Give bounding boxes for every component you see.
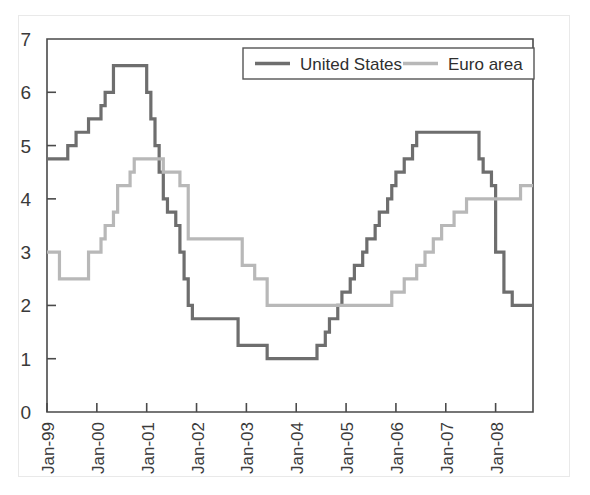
legend-label-united-states: United States [300,55,402,74]
x-tick-label-Jan-01: Jan-01 [139,422,158,474]
y-tick-label-6: 6 [20,82,31,103]
x-tick-label-Jan-05: Jan-05 [338,422,357,474]
chart-legend: United StatesEuro area [243,48,534,79]
y-tick-label-7: 7 [20,29,31,50]
x-tick-label-Jan-00: Jan-00 [89,422,108,474]
x-tick-label-Jan-07: Jan-07 [438,422,457,474]
plot-area: 01234567 Jan-99Jan-00Jan-01Jan-02Jan-03J… [0,0,590,495]
chart-svg: 01234567 Jan-99Jan-00Jan-01Jan-02Jan-03J… [0,0,590,495]
figure-container: 01234567 Jan-99Jan-00Jan-01Jan-02Jan-03J… [0,0,590,495]
y-tick-label-0: 0 [20,402,31,423]
x-tick-label-Jan-04: Jan-04 [288,422,307,474]
x-tick-label-Jan-02: Jan-02 [189,422,208,474]
y-axis-tick-labels: 01234567 [20,29,31,423]
x-axis-tick-labels: Jan-99Jan-00Jan-01Jan-02Jan-03Jan-04Jan-… [39,422,507,474]
x-tick-label-Jan-08: Jan-08 [488,422,507,474]
series-line-euro-area [47,159,533,306]
y-tick-label-5: 5 [20,136,31,157]
x-tick-label-Jan-06: Jan-06 [388,422,407,474]
x-tick-label-Jan-03: Jan-03 [238,422,257,474]
y-tick-label-3: 3 [20,242,31,263]
y-tick-label-1: 1 [20,349,31,370]
y-tick-label-4: 4 [20,189,31,210]
legend-label-euro-area: Euro area [448,55,523,74]
x-axis-tick-marks [47,403,496,412]
y-axis-tick-marks [47,92,56,358]
series-lines [47,66,533,359]
x-tick-label-Jan-99: Jan-99 [39,422,58,474]
axis-frame [47,39,533,412]
y-tick-label-2: 2 [20,295,31,316]
